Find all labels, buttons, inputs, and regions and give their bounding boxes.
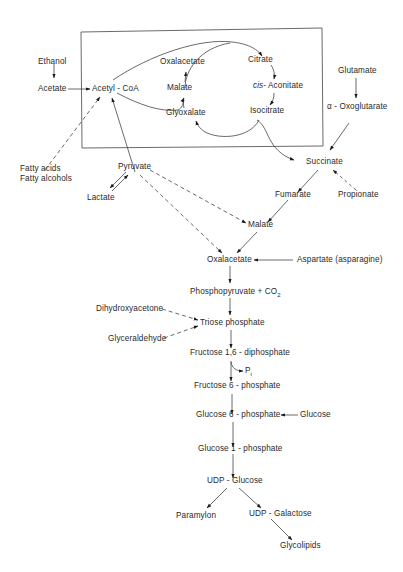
cis-prefix: cis	[253, 81, 263, 90]
pi-subscript: i	[251, 371, 252, 377]
phosphopyruvate-text: Phosphopyruvate + CO	[190, 287, 277, 296]
node-pyruvate: Pyruvate	[118, 162, 151, 172]
node-aspartate: Aspartate (asparagine)	[297, 255, 383, 265]
node-glucose: Glucose	[300, 410, 331, 420]
node-fatty-alcohols: Fatty alcohols	[20, 174, 72, 184]
node-glucose-1-phosphate: Glucose 1 - phosphate	[198, 444, 282, 454]
co2-subscript: 2	[277, 292, 280, 298]
node-fructose-6-phosphate: Fructose 6 - phosphate	[194, 381, 280, 391]
node-isocitrate: Isocitrate	[250, 106, 284, 116]
node-cis-aconitate: cis- Aconitate	[253, 81, 303, 91]
node-malate: Malate	[248, 220, 273, 230]
node-glyoxalate: Glyoxalate	[166, 108, 206, 118]
node-pi: Pi	[245, 366, 252, 379]
node-fumarate: Fumarate	[275, 190, 311, 200]
node-glutamate: Glutamate	[338, 66, 377, 76]
node-malate-cycle: Malate	[167, 83, 192, 93]
node-glycolipids: Glycolipids	[280, 541, 321, 551]
aconitate-text: - Aconitate	[263, 81, 303, 90]
node-triose-phosphate: Triose phosphate	[200, 318, 265, 328]
node-fatty-acids: Fatty acids	[20, 164, 61, 174]
node-citrate: Citrate	[248, 55, 273, 65]
node-glyceraldehyde: Glyceraldehyde	[108, 334, 166, 344]
node-phosphopyruvate: Phosphopyruvate + CO2	[190, 287, 281, 300]
node-acetate: Acetate	[38, 84, 66, 94]
node-dihydroxyacetone: Dihydroxyacetone	[96, 304, 163, 314]
node-oxalacetate: Oxalacetate	[207, 255, 252, 265]
node-succinate: Succinate	[306, 157, 343, 167]
node-propionate: Propionate	[338, 190, 379, 200]
node-alpha-oxoglutarate: α - Oxoglutarate	[327, 102, 388, 112]
node-acetyl-coa: Acetyl - CoA	[92, 84, 139, 94]
node-fructose-16-diphosphate: Fructose 1,6 - diphosphate	[190, 348, 290, 358]
node-udp-galactose: UDP - Galactose	[249, 509, 312, 519]
node-paramylon: Paramylon	[176, 511, 216, 521]
metabolic-pathway-diagram: Ethanol Acetate Acetyl - CoA Oxalacetate…	[0, 0, 403, 572]
node-ethanol: Ethanol	[38, 57, 66, 67]
node-oxalacetate-cycle: Oxalacetate	[160, 57, 205, 67]
node-glucose-6-phosphate: Glucose 6 - phosphate	[196, 410, 280, 420]
node-udp-glucose: UDP - Glucose	[207, 476, 263, 486]
node-lactate: Lactate	[87, 193, 115, 203]
